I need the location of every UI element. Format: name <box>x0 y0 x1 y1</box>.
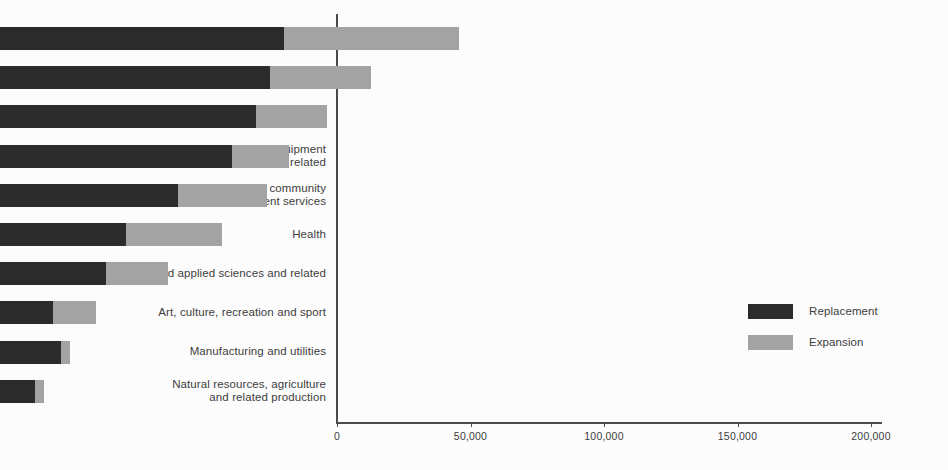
bar-segment-expansion <box>256 105 327 128</box>
bar-segment-replacement <box>0 301 53 324</box>
bar-row <box>0 184 267 207</box>
bar-segment-replacement <box>0 223 126 246</box>
x-tick-label: 200,000 <box>851 430 890 442</box>
bar-segment-expansion <box>270 66 371 89</box>
bar-row <box>0 262 168 285</box>
bar-row <box>0 27 459 50</box>
x-tick-label: 150,000 <box>718 430 757 442</box>
bar-segment-replacement <box>0 66 270 89</box>
bar-row <box>0 105 327 128</box>
bar-segment-replacement <box>0 27 284 50</box>
bar-segment-expansion <box>53 301 96 324</box>
bar-segment-replacement <box>0 380 35 403</box>
bar-row <box>0 341 70 364</box>
bar-row <box>0 145 289 168</box>
bar-segment-expansion <box>178 184 267 207</box>
bar-row <box>0 66 371 89</box>
bar-segment-expansion <box>106 262 168 285</box>
bar-segment-replacement <box>0 105 256 128</box>
x-tick-mark <box>337 422 338 427</box>
bar-segment-replacement <box>0 341 61 364</box>
bar-segment-expansion <box>284 27 459 50</box>
bar-row <box>0 380 44 403</box>
legend-label: Expansion <box>809 336 864 348</box>
bar-segment-replacement <box>0 145 232 168</box>
bar-segment-expansion <box>61 341 70 364</box>
legend-item[interactable]: Replacement <box>748 300 878 322</box>
bar-segment-expansion <box>126 223 222 246</box>
x-tick-label: 50,000 <box>454 430 487 442</box>
bar-segment-expansion <box>232 145 289 168</box>
chart-legend: ReplacementExpansion <box>748 300 878 362</box>
x-axis-line <box>336 422 882 424</box>
legend-swatch-replacement <box>748 304 793 319</box>
x-tick-mark <box>871 422 872 427</box>
stacked-bar-chart: Sales and ServiceBusiness, finance and a… <box>0 0 948 470</box>
x-tick-mark <box>604 422 605 427</box>
x-tick-label: 0 <box>334 430 340 442</box>
bar-segment-replacement <box>0 262 106 285</box>
bar-segment-replacement <box>0 184 178 207</box>
legend-label: Replacement <box>809 305 878 317</box>
bar-row <box>0 223 222 246</box>
legend-swatch-expansion <box>748 335 793 350</box>
bar-segment-expansion <box>35 380 44 403</box>
bar-row <box>0 301 96 324</box>
legend-item[interactable]: Expansion <box>748 331 878 353</box>
x-tick-mark <box>738 422 739 427</box>
category-label: Natural resources, agriculture and relat… <box>0 378 326 405</box>
x-tick-mark <box>471 422 472 427</box>
x-tick-label: 100,000 <box>584 430 623 442</box>
